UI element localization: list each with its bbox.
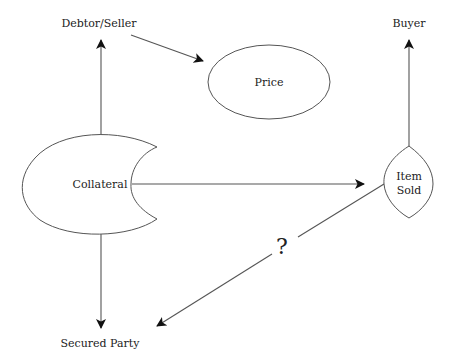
edge-item-to-secured-a <box>298 184 384 237</box>
edge-item-to-secured-b <box>157 254 272 326</box>
node-item-sold-line1: Item <box>396 170 422 183</box>
node-item-sold: Item Sold <box>384 146 433 218</box>
edge-debtor-to-price <box>131 35 203 61</box>
node-debtor-seller-label: Debtor/Seller <box>61 17 137 30</box>
edge-question-label: ? <box>276 234 288 259</box>
node-buyer-label: Buyer <box>392 17 426 30</box>
node-price-label: Price <box>255 76 284 89</box>
node-secured-party-label: Secured Party <box>61 337 141 350</box>
diagram-canvas: Price Collateral Item Sold Debtor/Seller… <box>0 0 457 363</box>
node-collateral-label: Collateral <box>73 178 128 191</box>
node-item-sold-line2: Sold <box>397 184 422 197</box>
node-price: Price <box>208 45 330 119</box>
